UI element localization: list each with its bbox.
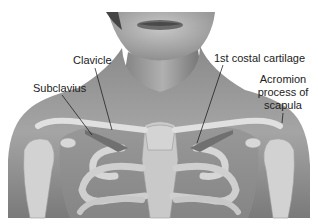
label-clavicle: Clavicle: [73, 54, 112, 67]
label-acromion-line3: scapula: [253, 99, 313, 112]
label-acromion-line2: process of: [253, 86, 313, 99]
anatomy-illustration: [0, 0, 318, 224]
label-subclavius: Subclavius: [33, 82, 86, 95]
label-acromion-process: Acromion process of scapula: [253, 73, 313, 112]
label-costal-cartilage: 1st costal cartilage: [214, 52, 305, 65]
label-acromion-line1: Acromion: [253, 73, 313, 86]
